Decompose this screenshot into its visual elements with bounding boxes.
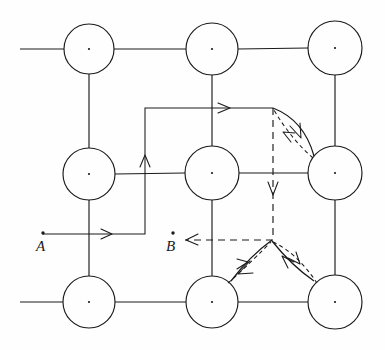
- hop-pair-lower-left: [228, 240, 272, 283]
- atom-center-dot-top-right: [334, 47, 336, 49]
- atom-center-dot-middle-left: [88, 173, 90, 175]
- bond-top-middle-to-top-right: [238, 48, 308, 49]
- hop-curve-dashed-upper-right: [274, 110, 313, 158]
- hop-curve-dashed-lower-left: [228, 242, 271, 283]
- bond-middle-left-to-middle-middle: [115, 173, 185, 174]
- atom-center-dot-bottom-left: [88, 301, 90, 303]
- site-dot-a: [41, 231, 44, 234]
- atom-center-dot-middle-middle: [211, 172, 213, 174]
- hop-curve-solid-lower-left: [231, 240, 272, 281]
- hop-pair-upper-right: [273, 108, 314, 158]
- lattice-diagram-figure: A B: [0, 0, 385, 350]
- hop-curve-dashed-lower-right: [273, 242, 317, 283]
- site-dot-b: [171, 231, 174, 234]
- site-label-a: A: [36, 239, 45, 254]
- atom-center-dot-top-left: [88, 48, 90, 50]
- atom-center-dot-top-middle: [211, 48, 213, 50]
- atom-center-dot-bottom-middle: [211, 301, 213, 303]
- site-label-b: B: [166, 239, 175, 254]
- hop-pair-lower-right: [272, 241, 317, 283]
- lattice-diagram-svg: [0, 0, 385, 350]
- hop-curve-solid-upper-right: [273, 108, 314, 156]
- atom-center-dot-middle-right: [334, 172, 336, 174]
- atom-center-dot-bottom-right: [334, 301, 336, 303]
